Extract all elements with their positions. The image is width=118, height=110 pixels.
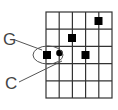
stone-square <box>68 34 76 42</box>
stone-square <box>43 51 51 59</box>
label-g: G <box>3 31 16 48</box>
grid-diagram <box>0 0 118 110</box>
stone-square <box>82 51 90 59</box>
pointer-line-c <box>19 61 62 82</box>
label-c: C <box>5 75 17 92</box>
stone-square <box>95 17 103 25</box>
pointer-line-g <box>15 40 42 50</box>
